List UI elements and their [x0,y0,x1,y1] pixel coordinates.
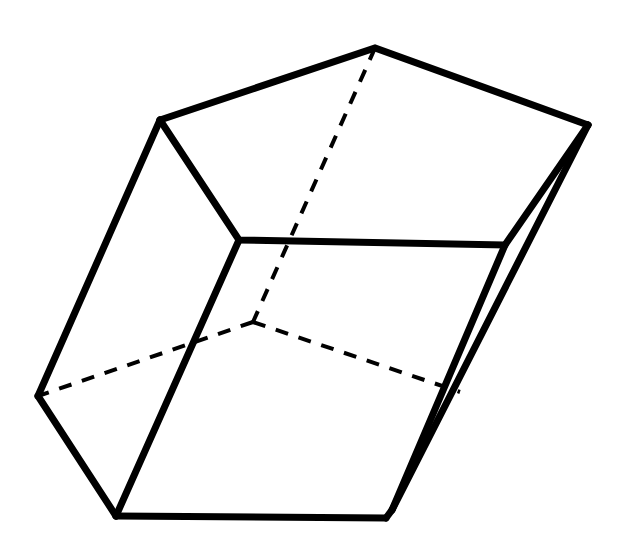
edge-bottom-front [116,516,386,518]
pentagonal-prism-drawing [0,0,621,544]
figure-root [0,0,621,544]
edge-bottom-right-spur [386,510,392,518]
